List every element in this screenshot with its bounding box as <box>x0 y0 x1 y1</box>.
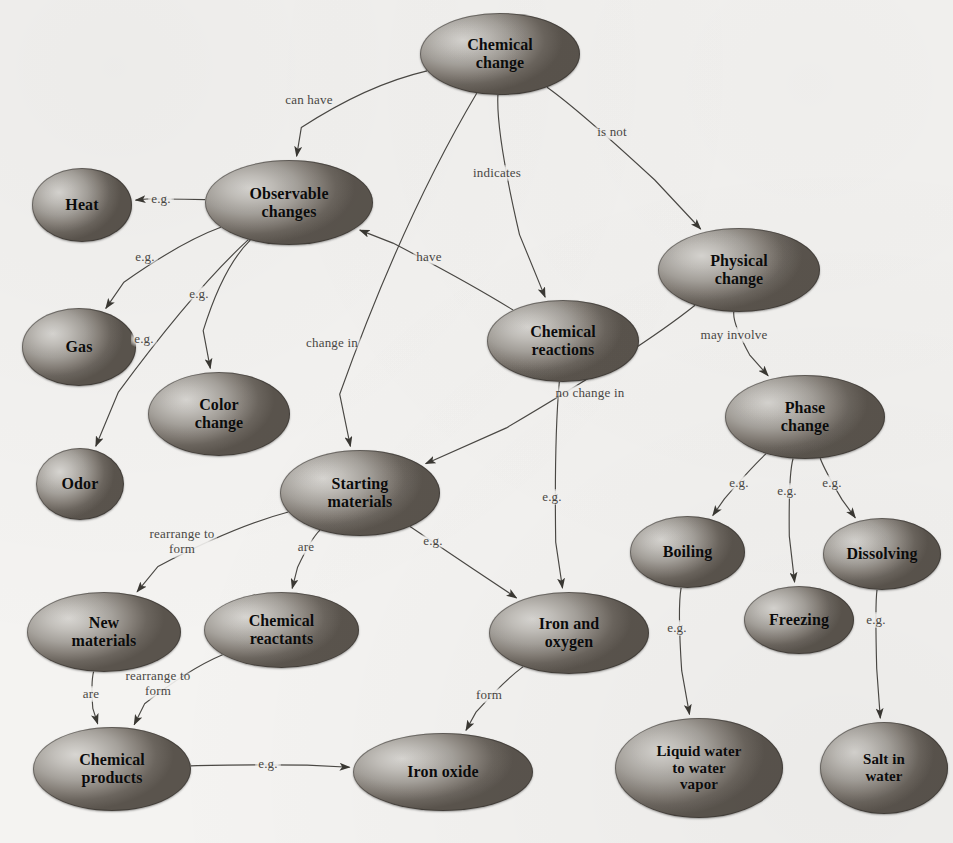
edge-label-cc-pc: is not <box>594 124 630 141</box>
node-label: Iron andoxygen <box>533 615 606 651</box>
edge-label-sm-nm: rearrange toform <box>147 526 218 558</box>
node-observable-changes[interactable]: Observablechanges <box>205 160 373 245</box>
edge-cc-sm <box>340 93 477 446</box>
node-liquid-water-vapor[interactable]: Liquid waterto watervapor <box>615 718 783 818</box>
node-phase-change[interactable]: Phasechange <box>725 375 885 459</box>
node-physical-change[interactable]: Physicalchange <box>658 228 820 312</box>
edge-cr-oc <box>360 230 513 310</box>
node-dissolving[interactable]: Dissolving <box>823 518 941 590</box>
node-iron-and-oxygen[interactable]: Iron andoxygen <box>489 592 649 674</box>
node-label: Liquid waterto watervapor <box>651 743 748 793</box>
edge-label-sm-io: e.g. <box>420 533 446 550</box>
edge-label-cr-io: e.g. <box>539 489 565 506</box>
node-new-materials[interactable]: Newmaterials <box>27 592 181 672</box>
edge-label-nm-cp: are <box>80 686 102 703</box>
node-salt-in-water[interactable]: Salt inwater <box>820 722 948 814</box>
node-label: Salt inwater <box>857 751 911 785</box>
edge-pc-ph <box>734 312 768 376</box>
edge-label-cp-ixo: e.g. <box>255 756 281 773</box>
node-label: Physicalchange <box>704 252 774 288</box>
edge-label-boil-lw: e.g. <box>664 620 690 637</box>
node-gas[interactable]: Gas <box>22 308 136 386</box>
edge-oc-col <box>203 240 250 368</box>
edge-label-cc-cr: indicates <box>470 165 524 182</box>
node-label: Iron oxide <box>401 763 484 781</box>
edge-label-pc-sm: no change in <box>553 385 628 402</box>
node-label: Freezing <box>763 611 835 629</box>
node-boiling[interactable]: Boiling <box>630 516 745 588</box>
edge-label-sm-crt: are <box>295 539 317 556</box>
node-starting-materials[interactable]: Startingmaterials <box>280 450 440 536</box>
edge-boil-lw <box>679 588 689 715</box>
node-chemical-products[interactable]: Chemicalproducts <box>33 727 191 811</box>
edge-label-io-ixo: form <box>473 687 505 704</box>
node-label: Chemicalreactants <box>243 612 321 648</box>
edge-ph-frz <box>789 459 794 583</box>
node-iron-oxide[interactable]: Iron oxide <box>353 733 533 811</box>
node-label: Startingmaterials <box>322 475 399 511</box>
node-label: Odor <box>56 475 105 493</box>
node-label: Newmaterials <box>66 614 143 650</box>
node-label: Dissolving <box>840 545 923 563</box>
node-chemical-reactions[interactable]: Chemicalreactions <box>487 300 639 382</box>
edge-cc-cr <box>498 95 545 297</box>
edge-label-oc-gas: e.g. <box>132 249 158 266</box>
concept-map-canvas: ChemicalchangeObservablechangesHeatGasCo… <box>0 0 953 843</box>
edge-label-oc-heat: e.g. <box>148 191 174 208</box>
node-odor[interactable]: Odor <box>36 448 124 520</box>
edge-cc-oc <box>297 71 428 156</box>
node-label: Colorchange <box>189 396 250 432</box>
edge-label-oc-odor: e.g. <box>131 331 157 348</box>
edge-label-dis-salt: e.g. <box>863 612 889 629</box>
edge-label-cc-oc: can have <box>282 92 335 109</box>
node-label: Gas <box>60 338 99 356</box>
node-label: Observablechanges <box>243 185 334 221</box>
edge-label-ph-boil: e.g. <box>726 475 752 492</box>
edge-cc-pc <box>547 87 701 229</box>
node-label: Chemicalproducts <box>73 751 151 787</box>
edge-label-cc-sm: change in <box>303 335 361 352</box>
edge-label-oc-col: e.g. <box>186 286 212 303</box>
edge-label-crt-cp: rearrange toform <box>123 668 194 700</box>
node-heat[interactable]: Heat <box>32 168 132 242</box>
edge-dis-salt <box>876 590 880 718</box>
node-chemical-change[interactable]: Chemicalchange <box>420 13 580 95</box>
node-color-change[interactable]: Colorchange <box>148 372 290 456</box>
node-label: Phasechange <box>775 399 836 435</box>
node-label: Boiling <box>657 543 719 561</box>
node-label: Heat <box>59 196 104 214</box>
node-freezing[interactable]: Freezing <box>744 586 854 654</box>
node-chemical-reactants[interactable]: Chemicalreactants <box>204 592 359 668</box>
edge-label-cr-oc: have <box>413 249 444 266</box>
edge-label-ph-dis: e.g. <box>819 475 845 492</box>
edge-label-ph-frz: e.g. <box>774 483 800 500</box>
edge-cr-io <box>555 382 562 588</box>
node-label: Chemicalchange <box>461 36 539 72</box>
edge-label-pc-ph: may involve <box>698 327 771 344</box>
node-label: Chemicalreactions <box>524 323 602 359</box>
